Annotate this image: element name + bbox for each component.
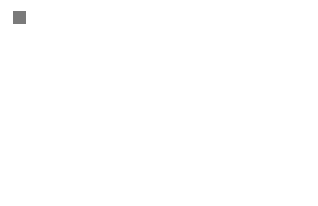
assembly-diagram bbox=[0, 0, 318, 206]
